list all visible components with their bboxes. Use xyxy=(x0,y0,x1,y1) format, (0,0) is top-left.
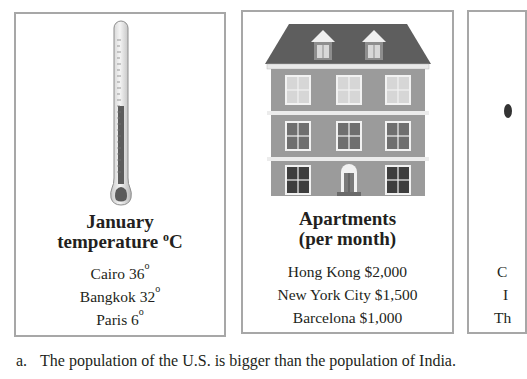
statement-text: The population of the U.S. is bigger tha… xyxy=(40,352,456,369)
degree-symbol: o xyxy=(163,230,169,244)
title-line-2: temperature oC xyxy=(16,232,224,252)
statement: a.The population of the U.S. is bigger t… xyxy=(16,352,456,370)
partial-card: C I Th xyxy=(467,10,527,334)
statement-label: a. xyxy=(16,352,40,370)
card-title: January temperature oC xyxy=(16,212,224,252)
temperature-list: Cairo 36o Bangkok 32o Paris 6o xyxy=(16,262,224,331)
list-item: Hong Kong $2,000 xyxy=(243,260,452,283)
title-line-1: January xyxy=(16,212,224,232)
partial-list: C I Th xyxy=(497,260,511,329)
list-item: I xyxy=(497,283,511,306)
thermometer-icon xyxy=(110,20,132,206)
unit-celsius: C xyxy=(169,231,183,252)
apartment-building-icon xyxy=(263,20,433,196)
list-item: Barcelona $1,000 xyxy=(243,306,452,329)
title-line-2: (per month) xyxy=(243,229,452,249)
list-item: C xyxy=(497,260,511,283)
list-item: New York City $1,500 xyxy=(243,283,452,306)
partial-image-icon xyxy=(504,104,512,118)
card-title: Apartments (per month) xyxy=(243,209,452,249)
apartments-card: Apartments (per month) Hong Kong $2,000 … xyxy=(241,10,454,334)
list-item: Paris 6o xyxy=(16,308,224,331)
rent-list: Hong Kong $2,000 New York City $1,500 Ba… xyxy=(243,260,452,329)
list-item: Th xyxy=(494,306,511,329)
list-item: Bangkok 32o xyxy=(16,285,224,308)
temperature-card: January temperature oC Cairo 36o Bangkok… xyxy=(14,12,226,337)
title-line-1: Apartments xyxy=(243,209,452,229)
list-item: Cairo 36o xyxy=(16,262,224,285)
